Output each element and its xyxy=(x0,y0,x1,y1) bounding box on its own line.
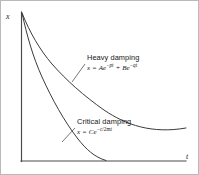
critical-formula-term-base: Ce xyxy=(89,128,97,136)
critical-damping-curve xyxy=(22,13,106,161)
heavy-formula-equals: = xyxy=(92,64,97,72)
heavy-formula-term1-exponent: −pt xyxy=(106,62,114,68)
critical-damping-leader-line xyxy=(62,128,75,142)
heavy-formula-plus: + xyxy=(115,64,120,72)
critical-damping-annotation: Critical damping x = Ce−c/2mt xyxy=(77,117,131,137)
critical-damping-formula: x = Ce−c/2mt xyxy=(77,127,131,137)
critical-formula-equals: = xyxy=(82,128,87,136)
heavy-damping-title: Heavy damping xyxy=(87,53,139,62)
heavy-formula-term2-base: Be xyxy=(122,64,129,72)
x-axis-label: t xyxy=(186,153,188,161)
heavy-damping-annotation: Heavy damping x = Ae−pt + Be−qt xyxy=(87,53,139,73)
critical-formula-exponent-variable: t xyxy=(110,126,111,132)
critical-formula-lhs: x xyxy=(77,128,80,136)
critical-formula-exponent-fraction: c/2m xyxy=(100,126,110,132)
plot-area xyxy=(0,0,199,175)
critical-damping-title: Critical damping xyxy=(77,117,131,126)
y-axis-label: x xyxy=(6,13,10,21)
damping-figure: x t Heavy damping x = Ae−pt + Be−qt Crit… xyxy=(0,0,199,175)
heavy-damping-formula: x = Ae−pt + Be−qt xyxy=(87,63,139,73)
heavy-formula-term1-base: Ae xyxy=(99,64,106,72)
heavy-formula-lhs: x xyxy=(87,64,90,72)
heavy-damping-leader-line xyxy=(72,64,85,82)
heavy-formula-term2-exponent: −qt xyxy=(130,62,138,68)
critical-formula-exponent: −c/2mt xyxy=(97,126,112,132)
